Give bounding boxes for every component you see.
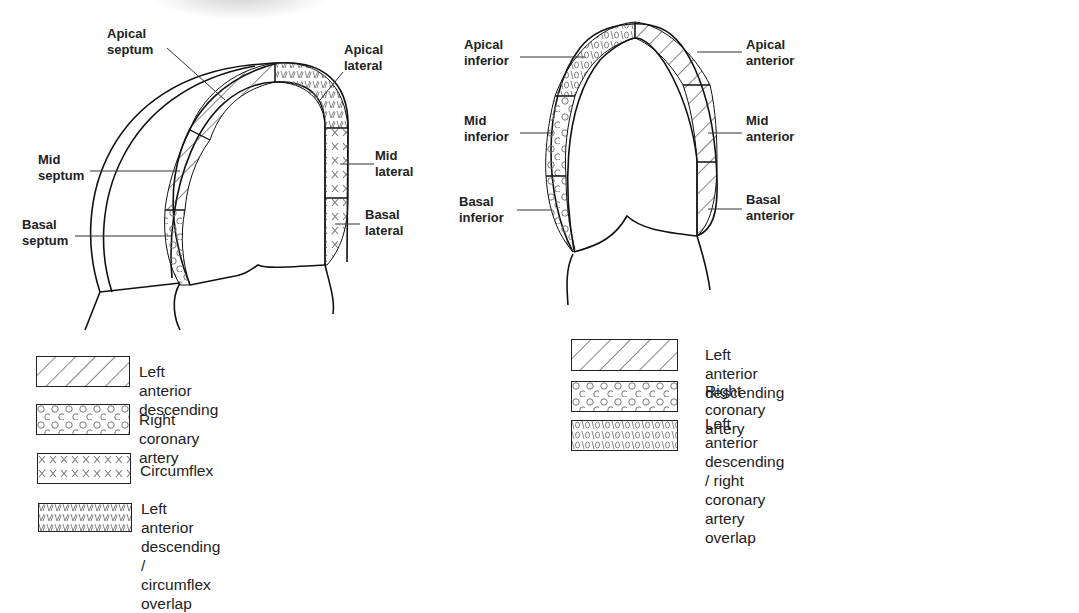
segment-mid-septum <box>165 130 210 210</box>
label-line: septum <box>107 42 153 58</box>
lad-rca-overlap-pattern-swatch <box>571 420 679 452</box>
label-line: lateral <box>375 164 413 180</box>
label-line: Basal <box>365 207 403 223</box>
segment-apical-lateral <box>275 63 348 128</box>
label-line: inferior <box>464 129 509 145</box>
label-line: anterior <box>746 129 794 145</box>
legend-item-lad-cx-overlap: Left anterior descending / circumflex ov… <box>38 503 220 613</box>
four-chamber-segments <box>165 63 348 285</box>
lad-cx-overlap-pattern-swatch <box>38 503 133 533</box>
label-line: Apical <box>746 37 794 53</box>
label-mid-anterior: Mid anterior <box>746 113 794 145</box>
label-mid-inferior: Mid inferior <box>464 113 509 145</box>
legend-label-line: artery overlap <box>705 509 784 547</box>
label-line: Apical <box>344 42 383 58</box>
rca-pattern-swatch <box>571 381 679 413</box>
label-line: inferior <box>459 210 504 226</box>
label-apical-inferior: Apical inferior <box>464 37 509 69</box>
legend-label: Circumflex <box>140 461 213 480</box>
label-line: lateral <box>365 223 403 239</box>
label-mid-lateral: Mid lateral <box>375 148 413 180</box>
lad-pattern-swatch <box>571 339 679 372</box>
segment-mid-lateral <box>325 128 348 198</box>
label-basal-inferior: Basal inferior <box>459 194 504 226</box>
label-line: Basal <box>459 194 504 210</box>
label-apical-septum: Apical septum <box>107 26 153 58</box>
legend-label-line: Left anterior descending / right coronar… <box>705 414 784 509</box>
label-line: Mid <box>746 113 794 129</box>
label-line: Mid <box>38 152 84 168</box>
circumflex-pattern-swatch <box>37 453 132 485</box>
legend-label-line: Left anterior descending / <box>141 499 220 575</box>
label-line: anterior <box>746 208 794 224</box>
lad-pattern-swatch <box>36 356 131 388</box>
legend-label: Left anterior descending / circumflex ov… <box>141 499 220 613</box>
label-basal-lateral: Basal lateral <box>365 207 403 239</box>
label-line: Mid <box>464 113 509 129</box>
label-line: septum <box>38 168 84 184</box>
label-line: Mid <box>375 148 413 164</box>
label-line: Basal <box>746 192 794 208</box>
rca-pattern-swatch <box>36 404 131 436</box>
label-line: lateral <box>344 58 383 74</box>
label-line: Apical <box>107 26 153 42</box>
segment-apical-inferior <box>555 22 635 96</box>
legend-item-lad-rca-overlap: Left anterior descending / right coronar… <box>571 420 784 547</box>
label-line: Basal <box>22 217 68 233</box>
legend-label: Left anterior descending / right coronar… <box>705 414 784 547</box>
label-line: anterior <box>746 53 794 69</box>
label-mid-septum: Mid septum <box>38 152 84 184</box>
label-line: septum <box>22 233 68 249</box>
label-basal-anterior: Basal anterior <box>746 192 794 224</box>
label-apical-lateral: Apical lateral <box>344 42 383 74</box>
label-line: Apical <box>464 37 509 53</box>
legend-label-line: circumflex overlap <box>141 575 220 613</box>
segment-basal-inferior <box>546 176 575 252</box>
segment-basal-lateral <box>325 198 348 265</box>
legend-item-circumflex: Circumflex <box>37 453 213 485</box>
segment-basal-septum <box>165 210 190 285</box>
label-apical-anterior: Apical anterior <box>746 37 794 69</box>
label-basal-septum: Basal septum <box>22 217 68 249</box>
segment-basal-anterior <box>697 162 717 236</box>
segment-mid-anterior <box>683 85 717 162</box>
label-line: inferior <box>464 53 509 69</box>
